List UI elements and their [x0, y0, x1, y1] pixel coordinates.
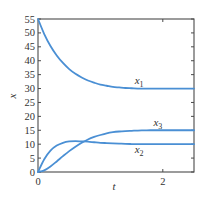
y-tick-label: 50 — [25, 27, 36, 38]
y-tick-label: 10 — [25, 139, 36, 150]
y-tick-label: 0 — [30, 167, 35, 178]
series-label-subscript: 2 — [140, 149, 144, 158]
y-tick-label: 25 — [25, 97, 36, 108]
axes — [38, 19, 194, 172]
y-tick-label: 35 — [25, 69, 36, 80]
series-line-x1 — [38, 19, 194, 89]
y-tick-label: 15 — [25, 125, 36, 136]
ticks: 051015202530354045505502 — [25, 14, 195, 188]
x-tick-label: 0 — [35, 176, 40, 187]
y-tick-label: 55 — [25, 14, 36, 25]
y-tick-label: 5 — [30, 153, 35, 164]
y-tick-label: 40 — [25, 55, 36, 66]
plot-frame — [38, 19, 194, 172]
x-axis-label: t — [112, 180, 116, 192]
series-label-x1: x1 — [134, 74, 144, 89]
y-axis-label: x — [6, 93, 18, 99]
series-label-subscript: 1 — [140, 80, 144, 89]
y-tick-label: 30 — [25, 83, 36, 94]
x-tick-label: 2 — [160, 176, 165, 187]
series-label-x3: x3 — [152, 116, 162, 131]
y-tick-label: 20 — [25, 111, 36, 122]
series-label-subscript: 3 — [158, 122, 162, 131]
line-chart: 051015202530354045505502 x1x2x3 t x — [0, 0, 204, 198]
series-line-x3 — [38, 130, 194, 172]
y-tick-label: 45 — [25, 41, 36, 52]
series-lines — [38, 19, 194, 172]
